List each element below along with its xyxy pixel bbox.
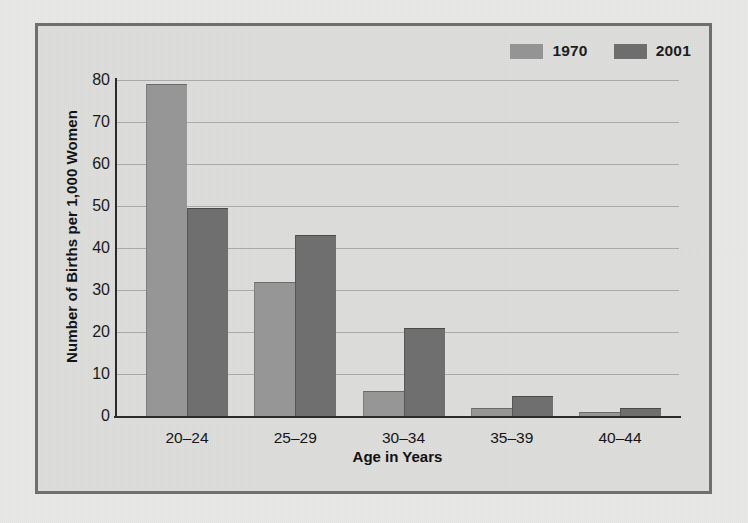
bar-1970-20-24[interactable] xyxy=(146,84,187,416)
legend-item-2001: 2001 xyxy=(614,42,691,60)
bar-group xyxy=(254,80,336,416)
bar-group xyxy=(363,80,445,416)
bar-2001-20-24[interactable] xyxy=(187,208,228,416)
y-axis-tick-label: 70 xyxy=(74,113,110,131)
legend-swatch-1970-icon xyxy=(510,44,543,59)
y-axis-tick-label: 40 xyxy=(74,239,110,257)
bar-1970-35-39[interactable] xyxy=(471,408,512,416)
y-axis-tick-label: 10 xyxy=(74,365,110,383)
chart-frame: 1970 2001 Number of Births per 1,000 Wom… xyxy=(35,23,712,494)
bar-1970-40-44[interactable] xyxy=(579,412,620,416)
bar-1970-25-29[interactable] xyxy=(254,282,295,416)
y-axis-tick-label: 60 xyxy=(74,155,110,173)
bar-1970-30-34[interactable] xyxy=(363,391,404,416)
chart-legend: 1970 2001 xyxy=(510,42,691,60)
bar-2001-25-29[interactable] xyxy=(295,235,336,416)
y-axis-tick-label: 20 xyxy=(74,323,110,341)
legend-label-1970: 1970 xyxy=(552,42,587,60)
x-axis-title-text: Age in Years xyxy=(353,448,443,465)
bar-2001-30-34[interactable] xyxy=(404,328,445,416)
bar-group xyxy=(579,80,661,416)
bar-2001-35-39[interactable] xyxy=(512,396,553,416)
legend-swatch-2001-icon xyxy=(614,44,647,59)
bar-2001-40-44[interactable] xyxy=(620,408,661,416)
plot-area: 01020304050607080 20–2425–2930–3435–3940… xyxy=(116,80,679,416)
bar-group xyxy=(471,80,553,416)
legend-item-1970: 1970 xyxy=(510,42,587,60)
bar-group xyxy=(146,80,228,416)
bar-series-container xyxy=(116,80,679,416)
y-axis-tick-label: 50 xyxy=(74,197,110,215)
x-axis-title: Age in Years xyxy=(116,418,679,465)
y-axis-tick-label: 0 xyxy=(74,407,110,425)
y-axis-title: Number of Births per 1,000 Women xyxy=(60,56,82,416)
y-axis-tick-label: 30 xyxy=(74,281,110,299)
legend-label-2001: 2001 xyxy=(656,42,691,60)
y-axis-tick-label: 80 xyxy=(74,71,110,89)
page-background: 1970 2001 Number of Births per 1,000 Wom… xyxy=(0,0,748,523)
